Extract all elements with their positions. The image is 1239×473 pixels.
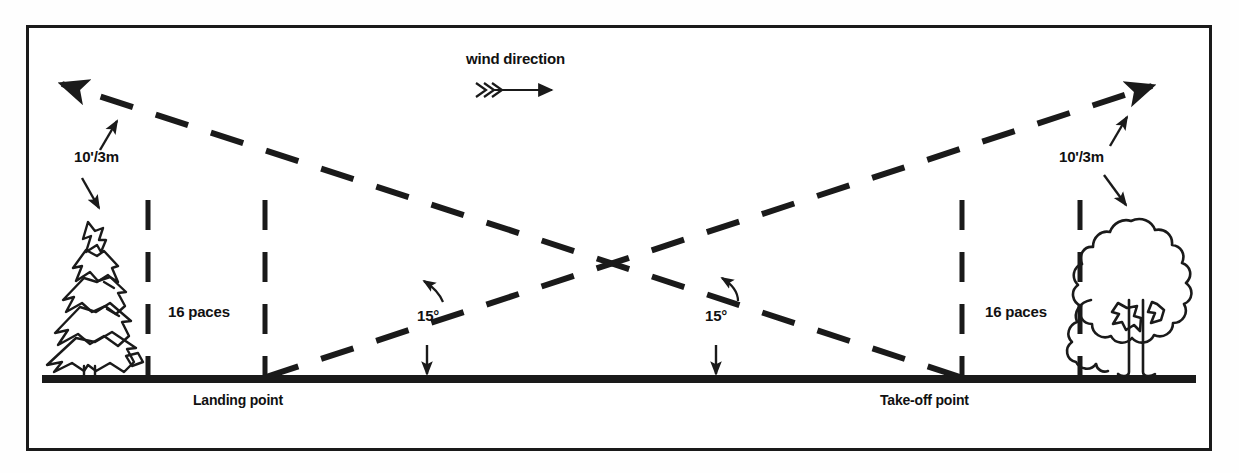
height-left-label: 10'/3m — [74, 148, 119, 165]
paces-left-label: 16 paces — [168, 303, 230, 320]
paces-right-label: 16 paces — [985, 303, 1047, 320]
height-right-label: 10'/3m — [1059, 148, 1104, 165]
takeoff-point-label: Take-off point — [880, 392, 969, 408]
wind-direction-label: wind direction — [466, 50, 565, 67]
landing-point-label: Landing point — [193, 392, 283, 408]
diagram-canvas: wind direction 10'/3m 10'/3m 16 paces 16… — [0, 0, 1239, 473]
angle-right-label: 15° — [705, 307, 727, 324]
angle-left-label: 15° — [417, 307, 439, 324]
diagram-frame — [26, 25, 1212, 451]
